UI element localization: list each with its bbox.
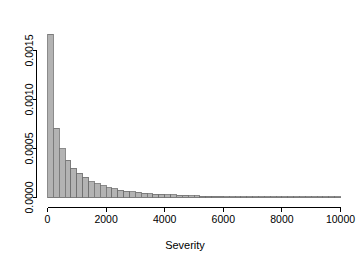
histogram-bar: [288, 197, 294, 198]
histogram-bar: [135, 192, 141, 197]
histogram-bar: [335, 197, 341, 198]
histogram-bar: [188, 196, 194, 198]
histogram-bar: [94, 184, 100, 198]
histogram-bar: [153, 194, 159, 197]
histogram-bar: [276, 197, 282, 198]
histogram-bar: [241, 197, 247, 198]
histogram-bar: [89, 182, 95, 198]
x-axis-tick-label: 0: [45, 213, 51, 225]
histogram-bar: [130, 192, 136, 198]
y-axis-tick-label: 0.0005: [23, 132, 35, 164]
y-axis-tick-label: 0.0000: [23, 181, 35, 213]
x-axis-tick-label: 2000: [94, 213, 118, 225]
histogram-bar: [200, 196, 206, 197]
histogram-bar: [270, 197, 276, 198]
x-axis-tick-label: 10000: [326, 213, 355, 225]
histogram-bar: [71, 168, 77, 197]
histogram-bar: [77, 173, 83, 197]
histogram-bar: [258, 197, 264, 198]
histogram-bar: [294, 197, 300, 198]
histogram-bar: [323, 197, 329, 198]
y-axis-tick-label: 0.0015: [23, 34, 35, 66]
histogram-bar: [194, 196, 200, 198]
histogram-bar: [147, 194, 153, 198]
histogram-bar: [112, 189, 118, 198]
histogram-bar: [317, 197, 323, 198]
histogram-bar: [65, 160, 71, 197]
y-axis-tick-label: 0.0010: [23, 83, 35, 115]
histogram-bar: [329, 197, 335, 198]
histogram-bar: [299, 197, 305, 198]
histogram-chart: 0200040006000800010000 0.00000.00050.001…: [0, 0, 362, 271]
histogram-bar: [206, 196, 212, 197]
histogram-bar: [182, 195, 188, 197]
histogram-bar: [100, 186, 106, 198]
histogram-bar: [171, 195, 177, 198]
x-axis-tick-label: 8000: [270, 213, 294, 225]
histogram-bar: [223, 197, 229, 198]
histogram-bar: [176, 195, 182, 197]
histogram-bar: [311, 197, 317, 198]
histogram-bar: [217, 196, 223, 197]
histogram-bar: [106, 188, 112, 198]
histogram-bar: [124, 191, 130, 197]
histogram-bar: [59, 149, 65, 198]
histogram-bar: [83, 177, 89, 197]
histogram-bar: [165, 195, 171, 198]
histogram-bar: [48, 34, 54, 197]
x-axis-tick-label: 4000: [153, 213, 177, 225]
histogram-bar: [141, 193, 147, 197]
histogram-bar: [212, 196, 218, 197]
histogram-bar: [53, 128, 59, 197]
histogram-bar: [305, 197, 311, 198]
histogram-bar: [253, 197, 259, 198]
histogram-bar: [118, 190, 124, 197]
histogram-bar: [282, 197, 288, 198]
histogram-bar: [264, 197, 270, 198]
histogram-bar: [235, 197, 241, 198]
histogram-bar: [247, 197, 253, 198]
x-axis-tick-label: 6000: [212, 213, 236, 225]
histogram-bar: [229, 197, 235, 198]
histogram-bar: [159, 194, 165, 197]
chart-canvas: 0200040006000800010000 0.00000.00050.001…: [0, 0, 362, 271]
x-axis-title: Severity: [165, 239, 205, 251]
